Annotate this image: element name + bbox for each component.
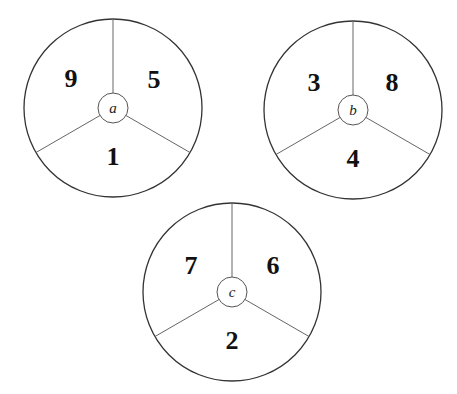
- segment-upper-right: 5: [148, 65, 161, 94]
- spinner-label: a: [109, 100, 117, 116]
- spinner-label: c: [229, 284, 236, 300]
- segment-upper-right: 8: [386, 68, 399, 97]
- segment-upper-right: 6: [267, 251, 280, 280]
- segment-upper-left: 9: [65, 64, 78, 93]
- spinners-diagram: a 9 5 1 b 3 8 4 c 7 6 2: [0, 0, 457, 394]
- segment-bottom: 2: [226, 326, 239, 355]
- segment-upper-left: 7: [185, 251, 198, 280]
- spinner-a: a 9 5 1: [24, 19, 202, 197]
- segment-bottom: 4: [347, 144, 360, 173]
- spinner-c: c 7 6 2: [143, 203, 321, 381]
- spinner-label: b: [349, 102, 357, 118]
- segment-bottom: 1: [107, 142, 120, 171]
- segment-upper-left: 3: [308, 68, 321, 97]
- spinner-b: b 3 8 4: [264, 21, 442, 199]
